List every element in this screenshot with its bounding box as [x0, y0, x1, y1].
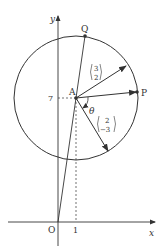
vector-3-2-arrow — [76, 66, 126, 98]
vector-3-2-label: 3 2 — [91, 64, 102, 82]
origin-label: O — [48, 225, 55, 235]
segment-AP-arrow — [76, 92, 136, 98]
vector-2-neg3-label: 2 −3 — [98, 116, 116, 134]
angle-theta-arc — [83, 97, 88, 108]
point-A-label: A — [68, 87, 76, 97]
point-P-label: P — [141, 88, 147, 98]
svg-text:3: 3 — [94, 65, 98, 73]
angle-theta-label: θ — [89, 106, 95, 116]
x-tick-label: 1 — [73, 226, 78, 235]
point-Q-label: Q — [81, 24, 88, 34]
svg-text:2: 2 — [105, 117, 109, 125]
diagram-canvas: y x O 1 7 A P Q θ 3 2 2 −3 — [0, 0, 165, 248]
svg-text:2: 2 — [94, 74, 98, 82]
x-axis-label: x — [149, 228, 154, 238]
point-Q — [83, 34, 87, 38]
point-P — [135, 90, 139, 94]
y-tick-label: 7 — [48, 94, 53, 103]
y-axis-label: y — [49, 14, 56, 24]
svg-text:−3: −3 — [100, 126, 110, 134]
line-OQ — [58, 36, 85, 222]
